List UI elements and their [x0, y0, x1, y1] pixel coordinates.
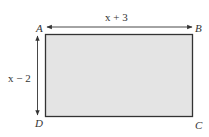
width-label: x + 3 — [105, 12, 128, 23]
vertex-label-d: D — [35, 118, 43, 129]
rectangle-abcd — [46, 35, 193, 117]
vertex-label-c: C — [195, 120, 202, 131]
vertex-label-b: B — [195, 23, 202, 34]
height-label: x − 2 — [8, 73, 31, 84]
vertex-label-a: A — [36, 23, 43, 34]
